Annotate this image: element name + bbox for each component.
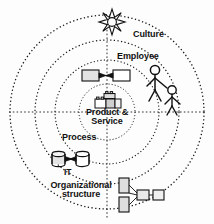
building-blocks-icon: [95, 92, 121, 108]
core-label: Product & Service: [76, 108, 138, 127]
employee-ring-label: Employee: [117, 52, 159, 61]
core-label-line2: Service: [91, 116, 122, 126]
database-right: [76, 151, 89, 166]
database-pair-icon: [52, 151, 89, 166]
org-label-line2: structure: [62, 189, 100, 199]
process-flow-icon: [82, 70, 130, 81]
org-chart-icon: [119, 178, 164, 212]
diagram-canvas: Culture Employee Product & Service Proce…: [0, 0, 214, 224]
culture-ring-label: Culture: [133, 30, 164, 39]
organizational-structure-label: Organizational structure: [45, 181, 117, 200]
it-label: IT: [64, 168, 71, 177]
two-people-icon: [147, 65, 180, 115]
person-large: [147, 65, 167, 101]
database-left: [52, 151, 65, 166]
sun-star-icon: [99, 9, 125, 35]
process-ring-label: Process: [62, 133, 96, 142]
